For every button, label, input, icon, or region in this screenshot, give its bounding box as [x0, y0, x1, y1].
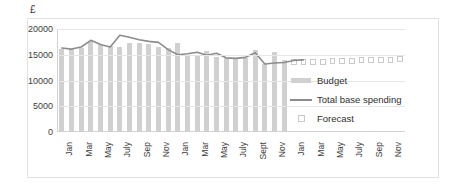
legend-item-label: Forecast: [317, 113, 354, 124]
chart-frame: 05000100001500020000 JanMarMayJulySepNov…: [27, 18, 439, 178]
x-axis-tick-label: Sep: [375, 142, 384, 157]
x-axis-tick-label: May: [336, 142, 345, 158]
bar-swatch-icon: [291, 78, 311, 83]
line-path: [62, 35, 304, 64]
y-axis-tick-label: 20000: [28, 25, 53, 34]
y-axis-tick-label: 15000: [28, 50, 53, 59]
x-axis-tick-labels: JanMarMayJulySepNovJanMarMayJulySeptNovJ…: [57, 142, 405, 182]
gridline: [57, 29, 405, 30]
legend-item[interactable]: Total base spending: [290, 90, 430, 109]
x-axis-tick-label: May: [104, 142, 113, 158]
legend-item-label: Total base spending: [317, 94, 402, 105]
legend-line-swatch-icon: [290, 99, 312, 101]
gridline: [57, 55, 405, 56]
x-axis-tick-label: Sept: [259, 142, 268, 160]
x-axis-tick-label: Nov: [278, 142, 287, 157]
legend-open-square-swatch-icon: [290, 115, 312, 122]
x-axis-tick-label: Sep: [143, 142, 152, 157]
legend-item-label: Budget: [317, 75, 347, 86]
legend-item[interactable]: Forecast: [290, 109, 430, 128]
x-axis-tick-label: Mar: [317, 142, 326, 157]
x-axis-tick-label: Mar: [85, 142, 94, 157]
x-axis-tick-label: Jan: [297, 142, 306, 156]
x-axis-tick-label: July: [355, 142, 364, 157]
y-axis-tick-label: 5000: [33, 102, 53, 111]
x-axis-tick-label: May: [220, 142, 229, 158]
chart-legend: BudgetTotal base spendingForecast: [290, 71, 430, 128]
x-axis-tick-label: July: [239, 142, 248, 157]
x-axis-tick-label: Jan: [65, 142, 74, 156]
legend-bar-swatch-icon: [290, 78, 312, 83]
chart-screenshot: £ 05000100001500020000 JanMarMayJulySepN…: [0, 0, 462, 187]
y-axis-unit-label: £: [30, 4, 36, 15]
x-axis-tick-label: Mar: [201, 142, 210, 157]
x-axis-tick-label: Jan: [181, 142, 190, 156]
y-axis-tick-label: 0: [48, 128, 53, 137]
legend-item[interactable]: Budget: [290, 71, 430, 90]
y-axis-tick-label: 10000: [28, 76, 53, 85]
x-axis-tick-label: Nov: [162, 142, 171, 157]
x-axis-tick-label: July: [123, 142, 132, 157]
x-axis-tick-label: Nov: [394, 142, 403, 157]
line-swatch-icon: [290, 99, 312, 101]
open-square-swatch-icon: [298, 115, 305, 122]
